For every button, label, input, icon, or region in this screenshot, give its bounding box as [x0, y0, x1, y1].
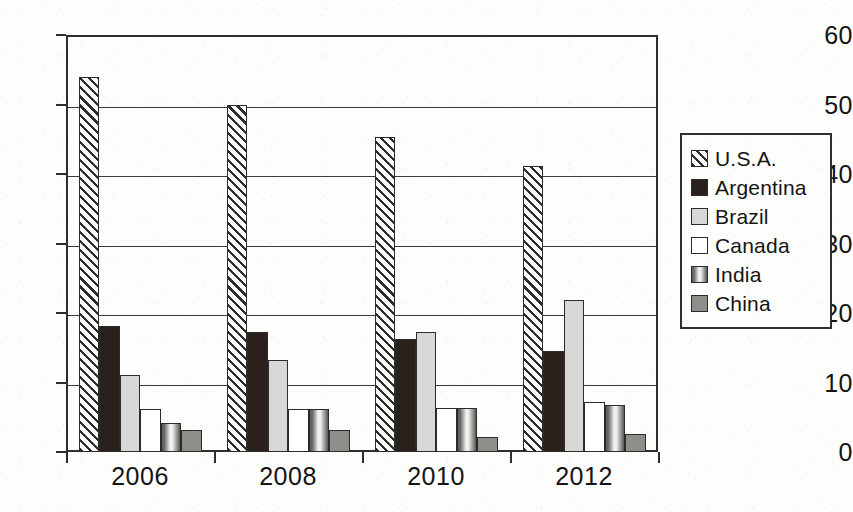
y-axis-tick-mark — [56, 451, 66, 453]
swatch-canada-white-icon — [691, 237, 708, 254]
swatch-brazil-light-gray-icon — [691, 208, 708, 225]
bar-argentina-2006 — [99, 326, 120, 452]
bar-brazil-2012 — [564, 300, 585, 452]
bar-brazil-2008 — [268, 360, 289, 452]
bars-layer — [66, 35, 658, 452]
y-axis-tick-label: 50 — [793, 92, 853, 117]
x-axis-tick-label-2006: 2006 — [70, 463, 210, 491]
bar-usa-2010 — [375, 137, 396, 452]
x-axis-tick-mark — [362, 452, 364, 463]
x-axis-tick-mark — [510, 452, 512, 463]
bar-india-2006 — [161, 423, 182, 452]
swatch-india-gradient-icon — [691, 266, 708, 283]
bar-canada-2008 — [288, 409, 309, 452]
x-axis-tick-mark — [658, 452, 660, 463]
legend-item-china[interactable]: China — [691, 289, 820, 318]
bar-china-2008 — [329, 430, 350, 452]
bar-china-2006 — [181, 430, 202, 452]
legend-item-label: India — [715, 264, 762, 285]
bar-usa-2006 — [79, 77, 100, 452]
bar-argentina-2008 — [247, 332, 268, 452]
y-axis-tick-mark — [56, 243, 66, 245]
y-axis-tick-label: 60 — [793, 23, 853, 48]
bar-india-2008 — [309, 409, 330, 452]
bar-brazil-2010 — [416, 332, 437, 452]
y-axis-tick-mark — [56, 173, 66, 175]
bar-chart: 0102030405060 2006200820102012 U.S.A.Arg… — [0, 0, 853, 512]
y-axis-tick-mark — [56, 312, 66, 314]
x-axis-tick-label-2010: 2010 — [366, 463, 506, 491]
legend-item-label: China — [715, 293, 771, 314]
bar-brazil-2006 — [120, 375, 141, 452]
x-axis-tick-mark — [66, 452, 68, 463]
bar-usa-2012 — [523, 166, 544, 452]
x-axis-tick-mark — [214, 452, 216, 463]
y-axis-tick-label: 10 — [793, 370, 853, 395]
y-axis-tick-mark — [56, 34, 66, 36]
bar-canada-2012 — [584, 402, 605, 452]
legend-item-argentina[interactable]: Argentina — [691, 173, 820, 202]
bar-india-2010 — [457, 408, 478, 452]
legend-item-label: U.S.A. — [715, 148, 777, 169]
bar-usa-2008 — [227, 105, 248, 453]
bar-china-2010 — [477, 437, 498, 452]
legend-item-india[interactable]: India — [691, 260, 820, 289]
x-axis-tick-label-2012: 2012 — [514, 463, 654, 491]
swatch-usa-hatched-icon — [691, 150, 708, 167]
bar-india-2012 — [605, 405, 626, 452]
bar-canada-2010 — [436, 408, 457, 452]
legend-item-brazil[interactable]: Brazil — [691, 202, 820, 231]
legend-item-usa[interactable]: U.S.A. — [691, 144, 820, 173]
swatch-china-gray-icon — [691, 295, 708, 312]
legend-item-canada[interactable]: Canada — [691, 231, 820, 260]
y-axis-tick-mark — [56, 104, 66, 106]
bar-argentina-2012 — [543, 351, 564, 452]
y-axis-tick-mark — [56, 382, 66, 384]
bar-canada-2006 — [140, 409, 161, 452]
legend-item-label: Argentina — [715, 177, 807, 198]
legend-item-label: Brazil — [715, 206, 769, 227]
bar-argentina-2010 — [395, 339, 416, 452]
x-axis-tick-label-2008: 2008 — [218, 463, 358, 491]
swatch-argentina-dark-icon — [691, 179, 708, 196]
y-axis-tick-label: 0 — [793, 440, 853, 465]
legend-item-label: Canada — [715, 235, 790, 256]
bar-china-2012 — [625, 434, 646, 452]
legend: U.S.A.ArgentinaBrazilCanadaIndiaChina — [680, 133, 832, 329]
